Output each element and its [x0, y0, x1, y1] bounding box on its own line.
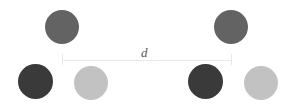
dimension-tick-left — [62, 54, 63, 65]
left-cluster-particle-top — [45, 10, 79, 44]
dimension-label-d: d — [141, 46, 148, 59]
dimension-line — [62, 60, 231, 61]
right-cluster-particle-top — [214, 10, 248, 44]
right-cluster-particle-bottom-left — [188, 64, 223, 99]
left-cluster-particle-bottom-left — [18, 64, 53, 99]
particle-separation-figure: d — [0, 0, 295, 112]
right-cluster-particle-bottom-right — [244, 66, 278, 100]
left-cluster-particle-bottom-right — [74, 66, 108, 100]
dimension-tick-right — [231, 54, 232, 65]
